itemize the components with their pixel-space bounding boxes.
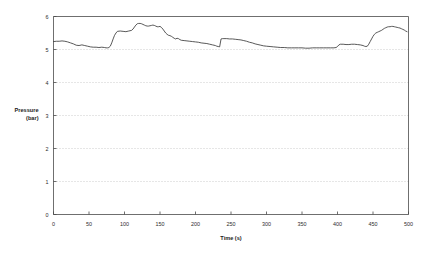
x-tick-label-50: 50 [86,221,92,227]
x-tick-label-300: 300 [262,221,271,227]
y-tick-label-6: 6 [46,14,49,20]
y-axis-title-line1: Pressure [15,107,39,113]
y-tick-label-1: 1 [46,179,49,185]
x-tick-label-450: 450 [369,221,378,227]
y-tick-label-5: 5 [46,47,49,53]
y-tick-label-2: 2 [46,146,49,152]
x-tick-label-400: 400 [333,221,342,227]
x-tick-label-150: 150 [156,221,165,227]
x-tick-label-100: 100 [120,221,129,227]
x-tick-label-250: 250 [227,221,236,227]
x-tick-label-200: 200 [191,221,200,227]
chart-background [0,0,431,253]
x-tick-label-0: 0 [52,221,55,227]
y-tick-label-3: 3 [46,113,49,119]
y-tick-label-4: 4 [46,80,49,86]
x-tick-label-350: 350 [298,221,307,227]
y-tick-label-0: 0 [46,212,49,218]
chart-canvas: 050100150200250300350400450500 0123456 T… [0,0,431,253]
y-axis-title-line2: (bar) [26,115,39,121]
pressure-time-chart: 050100150200250300350400450500 0123456 T… [0,0,431,253]
x-tick-label-500: 500 [404,221,413,227]
x-axis-title: Time (s) [220,235,241,241]
